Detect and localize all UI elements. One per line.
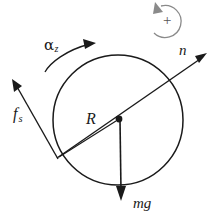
angular-acceleration-arrowhead [83, 39, 96, 49]
weight-shaft [120, 120, 121, 192]
alpha-subscript: z [54, 43, 58, 54]
normal-force-label: n [179, 43, 187, 58]
weight-arrowhead [116, 186, 126, 201]
static-friction-label: fs [13, 106, 23, 125]
alpha-glyph: α [44, 36, 54, 54]
angular-acceleration-label: αz [44, 38, 58, 54]
positive-sense-arrowhead [153, 2, 163, 14]
positive-sign-label: + [163, 13, 171, 28]
friction-subscript: s [17, 113, 22, 124]
rolling-wheel-free-body-diagram: αz n fs R mg + [0, 0, 214, 217]
diagram-canvas [0, 0, 214, 217]
center-dot [116, 116, 123, 123]
static-friction-arrowhead [12, 79, 22, 92]
radius-label: R [86, 111, 96, 127]
weight-label: mg [133, 196, 151, 211]
weight-vector [116, 120, 126, 201]
normal-force-vector [57, 53, 207, 158]
